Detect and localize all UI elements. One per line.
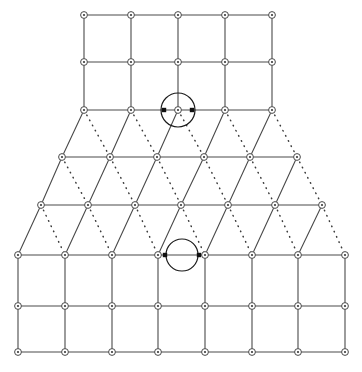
lattice-site-dot bbox=[130, 61, 132, 63]
diagonal-bond-dotted bbox=[131, 110, 157, 157]
diagonal-bond-dotted bbox=[157, 157, 181, 205]
lattice-site-dot bbox=[87, 204, 89, 206]
diagonal-bond-solid bbox=[204, 110, 225, 157]
diagonal-bond-solid bbox=[41, 157, 62, 205]
lattice-site-dot bbox=[297, 254, 299, 256]
lattice-site-dot bbox=[64, 351, 66, 353]
lattice-site-dot bbox=[224, 14, 226, 16]
lattice-diagram bbox=[0, 0, 362, 372]
diagonal-bond-solid bbox=[181, 157, 204, 205]
lattice-site-dot bbox=[251, 351, 253, 353]
diagonal-bond-dotted bbox=[275, 205, 298, 255]
lattice-site-dot bbox=[83, 61, 85, 63]
lattice-site-dot bbox=[344, 305, 346, 307]
lattice-site-dot bbox=[251, 305, 253, 307]
lattice-site-dot bbox=[249, 156, 251, 158]
lattice-site-dot bbox=[130, 14, 132, 16]
lattice-site-dot bbox=[157, 254, 159, 256]
diagonal-bond-dotted bbox=[250, 157, 275, 205]
lattice-site-dot bbox=[40, 204, 42, 206]
lattice-site-dot bbox=[344, 351, 346, 353]
lattice-site-dot bbox=[17, 254, 19, 256]
lattice-site-dot bbox=[83, 14, 85, 16]
diagonal-bond-solid bbox=[88, 157, 110, 205]
lattice-site-dot bbox=[224, 61, 226, 63]
lattice-site-dot bbox=[296, 156, 298, 158]
diagonal-bond-solid bbox=[158, 205, 181, 255]
lattice-site-dot bbox=[203, 156, 205, 158]
lattice-site-dot bbox=[64, 254, 66, 256]
diagonal-bond-solid bbox=[112, 205, 135, 255]
site-highlight-marker bbox=[162, 108, 166, 112]
diagonal-bond-dotted bbox=[84, 110, 110, 157]
lattice-site-dot bbox=[271, 109, 273, 111]
bond-layer-dotted bbox=[41, 110, 345, 255]
lattice-site-dot bbox=[109, 156, 111, 158]
lattice-site-dot bbox=[130, 109, 132, 111]
diagonal-bond-dotted bbox=[135, 205, 158, 255]
diagonal-bond-solid bbox=[135, 157, 157, 205]
lattice-figure bbox=[0, 0, 362, 372]
lattice-site-dot bbox=[321, 204, 323, 206]
diagonal-bond-solid bbox=[65, 205, 88, 255]
bond-highlight-marker bbox=[163, 253, 167, 257]
lattice-site-dot bbox=[83, 109, 85, 111]
diagonal-bond-solid bbox=[157, 110, 178, 157]
diagonal-bond-dotted bbox=[297, 157, 322, 205]
lattice-site-dot bbox=[177, 109, 179, 111]
lattice-site-dot bbox=[274, 204, 276, 206]
lattice-site-dot bbox=[227, 204, 229, 206]
lattice-site-dot bbox=[64, 305, 66, 307]
highlight-layer bbox=[161, 93, 201, 271]
diagonal-bond-dotted bbox=[88, 205, 112, 255]
lattice-site-dot bbox=[271, 61, 273, 63]
lattice-site-dot bbox=[61, 156, 63, 158]
diagonal-bond-solid bbox=[62, 110, 84, 157]
diagonal-bond-solid bbox=[275, 157, 297, 205]
site-layer bbox=[15, 12, 349, 356]
diagonal-bond-solid bbox=[250, 110, 272, 157]
lattice-site-dot bbox=[204, 254, 206, 256]
bond-highlight-marker bbox=[197, 253, 201, 257]
diagonal-bond-dotted bbox=[225, 110, 250, 157]
lattice-site-dot bbox=[204, 305, 206, 307]
lattice-site-dot bbox=[271, 14, 273, 16]
lattice-site-dot bbox=[111, 254, 113, 256]
diagonal-bond-dotted bbox=[41, 205, 65, 255]
lattice-site-dot bbox=[134, 204, 136, 206]
lattice-site-dot bbox=[157, 305, 159, 307]
diagonal-bond-dotted bbox=[62, 157, 88, 205]
lattice-site-dot bbox=[17, 305, 19, 307]
diagonal-bond-dotted bbox=[110, 157, 135, 205]
diagonal-bond-solid bbox=[228, 157, 250, 205]
diagonal-bond-dotted bbox=[204, 157, 228, 205]
diagonal-bond-solid bbox=[110, 110, 131, 157]
diagonal-bond-solid bbox=[298, 205, 322, 255]
diagonal-bond-dotted bbox=[272, 110, 297, 157]
bond-layer-solid bbox=[18, 15, 345, 352]
lattice-site-dot bbox=[177, 61, 179, 63]
diagonal-bond-solid bbox=[252, 205, 275, 255]
site-highlight-marker bbox=[190, 108, 194, 112]
lattice-site-dot bbox=[177, 14, 179, 16]
lattice-site-dot bbox=[156, 156, 158, 158]
diagonal-bond-dotted bbox=[228, 205, 252, 255]
diagonal-bond-solid bbox=[18, 205, 41, 255]
lattice-site-dot bbox=[344, 254, 346, 256]
lattice-site-dot bbox=[180, 204, 182, 206]
diagonal-bond-dotted bbox=[178, 110, 204, 157]
lattice-site-dot bbox=[111, 351, 113, 353]
lattice-site-dot bbox=[204, 351, 206, 353]
lattice-site-dot bbox=[111, 305, 113, 307]
lattice-site-dot bbox=[17, 351, 19, 353]
lattice-site-dot bbox=[297, 305, 299, 307]
diagonal-bond-dotted bbox=[322, 205, 345, 255]
lattice-site-dot bbox=[251, 254, 253, 256]
lattice-site-dot bbox=[157, 351, 159, 353]
diagonal-bond-dotted bbox=[181, 205, 205, 255]
diagonal-bond-solid bbox=[205, 205, 228, 255]
lattice-site-dot bbox=[224, 109, 226, 111]
lattice-site-dot bbox=[297, 351, 299, 353]
